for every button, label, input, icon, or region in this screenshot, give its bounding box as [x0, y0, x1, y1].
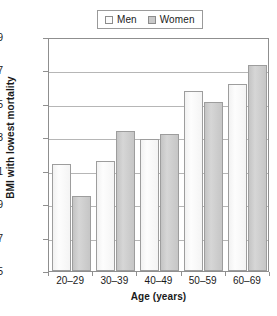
bar-men-60-69: [228, 84, 247, 271]
y-axis-tick-mark: [43, 38, 48, 39]
y-axis-tick-mark: [43, 71, 48, 72]
bar-group: [137, 39, 181, 271]
bar-group: [226, 39, 270, 271]
y-axis-title-text: BMI with lowest mortality: [5, 76, 16, 199]
legend-swatch-men-icon: [105, 16, 113, 24]
y-axis-title: BMI with lowest mortality: [0, 0, 20, 274]
bar-women-20-29: [72, 196, 91, 271]
y-axis-tick-label: 29: [0, 33, 3, 43]
x-axis-tick-mark: [92, 272, 93, 276]
y-axis-tick-label: 17: [0, 234, 3, 244]
bar-men-40-49: [140, 139, 159, 271]
x-axis-tick-mark: [136, 272, 137, 276]
bar-group: [182, 39, 226, 271]
bar-women-60-69: [248, 65, 267, 271]
legend-label-men: Men: [117, 15, 137, 25]
y-axis-tick-label: 27: [0, 66, 3, 76]
legend-swatch-women-icon: [148, 16, 156, 24]
y-axis-tick-label: 25: [0, 100, 3, 110]
y-axis-tick-label: 19: [0, 200, 3, 210]
y-axis-tick-label: 15: [0, 267, 3, 277]
bar-women-50-59: [204, 102, 223, 271]
x-axis-tick-mark: [269, 272, 270, 276]
x-axis-tick-mark: [48, 272, 49, 276]
legend-entry-men: Men: [105, 15, 137, 25]
x-axis-tick-label: 60–69: [220, 276, 274, 286]
legend-entry-women: Women: [148, 15, 195, 25]
bmi-mortality-bar-chart: Men Women BMI with lowest mortality Age …: [0, 0, 277, 316]
y-axis-tick-label: 21: [0, 167, 3, 177]
y-axis-tick-mark: [43, 205, 48, 206]
x-axis-tick-mark: [181, 272, 182, 276]
y-axis-tick-mark: [43, 138, 48, 139]
chart-legend: Men Women: [97, 10, 203, 29]
bar-men-20-29: [52, 164, 71, 271]
legend-label-women: Women: [160, 15, 195, 25]
bar-women-40-49: [160, 134, 179, 271]
y-axis-tick-mark: [43, 105, 48, 106]
plot-area: [48, 38, 269, 272]
bar-women-30-39: [116, 131, 135, 271]
bar-men-50-59: [184, 91, 203, 272]
x-axis-tick-mark: [225, 272, 226, 276]
y-axis-tick-mark: [43, 239, 48, 240]
bar-group: [49, 39, 93, 271]
bar-group: [93, 39, 137, 271]
bar-men-30-39: [96, 161, 115, 271]
y-axis-tick-label: 23: [0, 133, 3, 143]
y-axis-tick-mark: [43, 172, 48, 173]
x-axis-title: Age (years): [48, 291, 269, 302]
